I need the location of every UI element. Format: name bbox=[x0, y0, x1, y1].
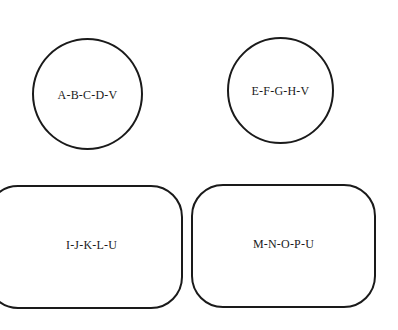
rounded-rect-node-ijklu: I-J-K-L-U bbox=[0, 185, 183, 309]
node-label: M-N-O-P-U bbox=[253, 237, 314, 252]
circle-node-abcdv: A-B-C-D-V bbox=[32, 38, 143, 150]
node-label: E-F-G-H-V bbox=[252, 84, 310, 99]
circle-node-efghv: E-F-G-H-V bbox=[227, 37, 334, 144]
node-label: A-B-C-D-V bbox=[58, 88, 118, 103]
node-label: I-J-K-L-U bbox=[66, 238, 117, 253]
rounded-rect-node-mnopu: M-N-O-P-U bbox=[191, 184, 376, 308]
